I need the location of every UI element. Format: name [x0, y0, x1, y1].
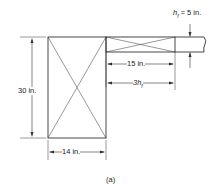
height-label: 30 in.: [18, 87, 36, 95]
figure-caption: (a): [106, 176, 115, 184]
web-width-label: 14 in.: [62, 148, 80, 156]
hf-value: = 5 in.: [179, 8, 202, 17]
flange-overhang-label: 15 in.: [127, 60, 145, 68]
flange-thickness-label: hf = 5 in.: [173, 9, 201, 19]
overhang-limit-label: 3hf: [133, 79, 143, 89]
3hf-subscript: f: [141, 83, 142, 89]
break-line: [204, 37, 206, 52]
